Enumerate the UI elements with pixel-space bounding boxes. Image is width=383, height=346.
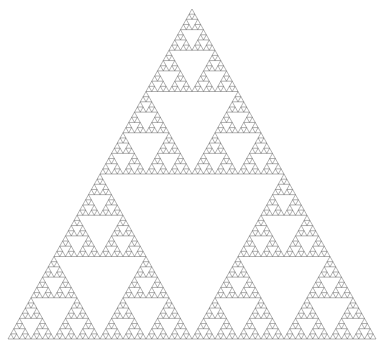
sierpinski-cell: [238, 128, 244, 133]
sierpinski-cell: [238, 97, 244, 102]
sierpinski-cell: [244, 272, 250, 277]
sierpinski-cell: [261, 148, 267, 153]
sierpinski-cell: [267, 313, 273, 318]
sierpinski-cell: [229, 102, 235, 107]
sierpinski-cell: [135, 241, 141, 246]
sierpinski-cell: [293, 318, 299, 323]
sierpinski-cell: [57, 246, 63, 251]
sierpinski-cell: [83, 200, 89, 205]
sierpinski-cell: [152, 282, 158, 287]
sierpinski-cell: [261, 210, 267, 215]
sierpinski-cell: [198, 76, 204, 81]
sierpinski-cell: [71, 303, 77, 308]
sierpinski-cell: [281, 174, 287, 179]
sierpinski-cell: [63, 236, 69, 241]
sierpinski-cell: [71, 313, 77, 318]
sierpinski-cell: [135, 272, 141, 277]
sierpinski-cell: [204, 86, 210, 91]
sierpinski-cell: [232, 262, 238, 267]
sierpinski-cell: [123, 169, 129, 174]
sierpinski-cell: [350, 298, 356, 303]
sierpinski-cell: [129, 159, 135, 164]
sierpinski-cell: [304, 298, 310, 303]
sierpinski-cell: [298, 329, 304, 334]
sierpinski-cell: [146, 272, 152, 277]
sierpinski-cell: [261, 220, 267, 225]
sierpinski-cell: [40, 318, 46, 323]
sierpinski-cell: [290, 324, 296, 329]
sierpinski-cell: [301, 303, 307, 308]
sierpinski-cell: [123, 334, 129, 339]
sierpinski-cell: [333, 329, 339, 334]
sierpinski-cell: [71, 334, 77, 339]
sierpinski-cell: [319, 251, 325, 256]
sierpinski-cell: [255, 220, 261, 225]
sierpinski-cell: [284, 210, 290, 215]
sierpinski-cell: [166, 133, 172, 138]
sierpinski-cell: [114, 164, 120, 169]
sierpinski-cell: [66, 282, 72, 287]
sierpinski-cell: [261, 313, 267, 318]
sierpinski-cell: [224, 71, 230, 76]
sierpinski-cell: [238, 262, 244, 267]
sierpinski-cell: [301, 231, 307, 236]
sierpinski-cell: [278, 179, 284, 184]
sierpinski-cell: [106, 334, 112, 339]
sierpinski-cell: [267, 334, 273, 339]
sierpinski-cell: [152, 117, 158, 122]
sierpinski-cell: [310, 287, 316, 292]
sierpinski-cell: [270, 318, 276, 323]
sierpinski-cell: [25, 303, 31, 308]
sierpinski-cell: [71, 231, 77, 236]
sierpinski-cell: [192, 86, 198, 91]
sierpinski-cell: [347, 334, 353, 339]
sierpinski-cell: [146, 293, 152, 298]
sierpinski-cell: [89, 189, 95, 194]
sierpinski-cell: [267, 169, 273, 174]
sierpinski-cell: [135, 293, 141, 298]
sierpinski-cell: [344, 329, 350, 334]
sierpinski-cell: [296, 241, 302, 246]
sierpinski-cell: [146, 128, 152, 133]
sierpinski-cell: [158, 159, 164, 164]
sierpinski-cell: [11, 329, 17, 334]
sierpinski-cell: [149, 102, 155, 107]
sierpinski-cell: [152, 324, 158, 329]
sierpinski-cell: [71, 251, 77, 256]
sierpinski-cell: [275, 329, 281, 334]
sierpinski-cell: [169, 148, 175, 153]
sierpinski-cell: [160, 287, 166, 292]
sierpinski-cell: [163, 66, 169, 71]
sierpinski-cell: [342, 334, 348, 339]
sierpinski-cell: [336, 334, 342, 339]
sierpinski-cell: [252, 329, 258, 334]
sierpinski-cell: [103, 329, 109, 334]
sierpinski-cell: [77, 313, 83, 318]
sierpinski-cell: [22, 308, 28, 313]
sierpinski-cell: [175, 45, 181, 50]
sierpinski-cell: [258, 133, 264, 138]
sierpinski-cell: [123, 148, 129, 153]
sierpinski-cell: [178, 318, 184, 323]
sierpinski-cell: [347, 303, 353, 308]
sierpinski-cell: [86, 236, 92, 241]
sierpinski-cell: [273, 200, 279, 205]
sierpinski-cell: [232, 86, 238, 91]
sierpinski-cell: [301, 210, 307, 215]
sierpinski-cell: [103, 205, 109, 210]
sierpinski-cell: [86, 318, 92, 323]
sierpinski-cell: [181, 334, 187, 339]
sierpinski-cell: [204, 324, 210, 329]
sierpinski-cell: [186, 45, 192, 50]
sierpinski-cell: [209, 86, 215, 91]
sierpinski-cell: [313, 282, 319, 287]
sierpinski-cell: [250, 231, 256, 236]
sierpinski-cell: [140, 272, 146, 277]
sierpinski-cell: [135, 128, 141, 133]
sierpinski-cell: [324, 272, 330, 277]
sierpinski-cell: [123, 138, 129, 143]
sierpinski-cell: [158, 76, 164, 81]
sierpinski-cell: [112, 324, 118, 329]
sierpinski-cell: [204, 159, 210, 164]
sierpinski-cell: [94, 210, 100, 215]
